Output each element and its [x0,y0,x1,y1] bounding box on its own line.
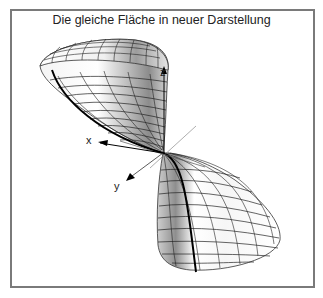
surface-plot: z x y [0,0,323,298]
x-axis-label: x [86,134,92,146]
y-axis [128,153,163,179]
y-axis-label: y [114,180,120,192]
x-arrow-icon [98,140,108,146]
lower-funnel [157,153,280,272]
z-axis-label: z [160,66,166,78]
upper-funnel [40,39,168,153]
y-arrow-icon [126,173,135,181]
